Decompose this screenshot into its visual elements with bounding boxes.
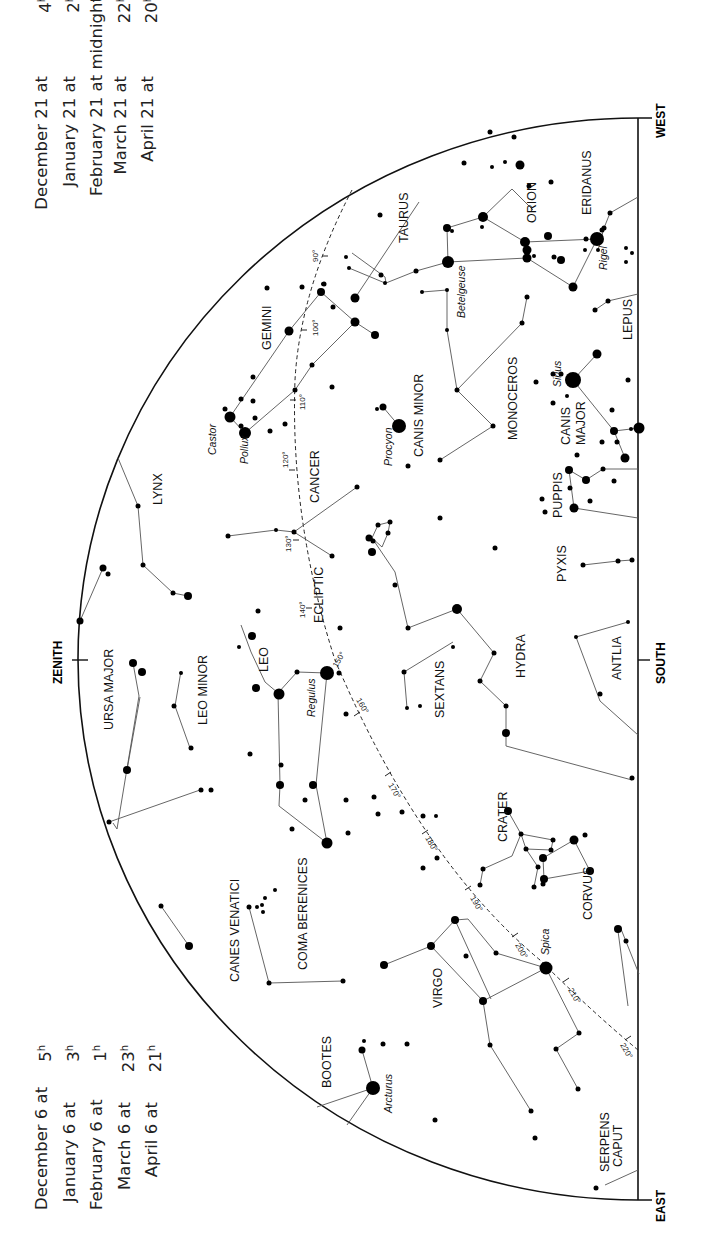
- constellation-lines: [80, 189, 639, 1185]
- label-leo: LEO: [257, 647, 271, 672]
- label-ursa-major: URSA MAJOR: [102, 649, 116, 730]
- label-sextans: SEXTANS: [433, 661, 447, 718]
- label-pyxis: PYXIS: [555, 545, 569, 582]
- constellation-labels: TAURUS ORION ERIDANUS GEMINI CANIS MINOR…: [102, 150, 635, 1172]
- zenith-label: ZENITH: [51, 641, 65, 684]
- label-crater: CRATER: [496, 792, 510, 842]
- label-virgo: VIRGO: [431, 967, 445, 1008]
- svg-text:150°: 150°: [331, 650, 347, 669]
- star-sirius: Sirius: [551, 360, 563, 387]
- svg-text:190°: 190°: [468, 895, 484, 914]
- star-regulus: Regulus: [305, 678, 317, 717]
- star-arcturus: Arcturus: [382, 1073, 394, 1114]
- star-betelgeuse: Betelgeuse: [455, 265, 467, 318]
- label-monoceros: MONOCEROS: [506, 357, 520, 440]
- svg-text:120°: 120°: [281, 451, 290, 468]
- label-caput: CAPUT: [611, 1124, 625, 1167]
- svg-text:200°: 200°: [513, 942, 529, 961]
- label-leo-minor: LEO MINOR: [196, 655, 210, 725]
- svg-text:130°: 130°: [284, 535, 293, 552]
- stars: [77, 130, 645, 1191]
- svg-text:210°: 210°: [566, 987, 582, 1006]
- label-cancer: CANCER: [308, 450, 322, 503]
- south-label: SOUTH: [654, 642, 668, 684]
- label-major: MAJOR: [574, 401, 588, 445]
- svg-text:160°: 160°: [354, 697, 370, 716]
- horizon-frame: [72, 118, 652, 1200]
- svg-text:140°: 140°: [298, 601, 307, 618]
- label-canis-minor: CANIS MINOR: [412, 374, 426, 457]
- label-canis: CANIS: [559, 407, 573, 445]
- label-ecliptic: ECLIPTIC: [312, 567, 326, 623]
- label-hydra: HYDRA: [514, 634, 528, 678]
- star-rigel: Rigel: [597, 245, 609, 270]
- label-lepus: LEPUS: [621, 299, 635, 340]
- star-chart: WEST SOUTH EAST ZENITH 90° 100° 110° 120…: [0, 0, 705, 1255]
- svg-text:170°: 170°: [386, 782, 402, 801]
- label-lynx: LYNX: [151, 473, 165, 505]
- label-puppis: PUPPIS: [551, 472, 565, 518]
- label-coma-berenices: COMA BERENICES: [296, 857, 310, 970]
- star-procyon: Procyon: [382, 427, 394, 466]
- label-serpens: SERPENS: [598, 1112, 612, 1172]
- star-castor: Castor: [206, 424, 218, 455]
- west-label: WEST: [654, 103, 668, 138]
- star-pollux: Pollux: [238, 435, 250, 464]
- svg-text:110°: 110°: [298, 394, 307, 410]
- label-canes-venatici: CANES VENATICI: [228, 879, 242, 982]
- label-orion: ORION: [525, 182, 539, 223]
- east-label: EAST: [654, 1189, 668, 1222]
- label-antlia: ANTLIA: [610, 636, 624, 680]
- label-gemini: GEMINI: [260, 306, 274, 350]
- label-bootes: BOOTES: [320, 1036, 334, 1088]
- svg-text:90°: 90°: [311, 250, 320, 262]
- label-taurus: TAURUS: [397, 193, 411, 243]
- svg-text:180°: 180°: [423, 835, 439, 854]
- svg-text:100°: 100°: [311, 319, 320, 336]
- star-spica: Spica: [539, 929, 551, 955]
- label-eridanus: ERIDANUS: [580, 150, 594, 215]
- star-names: Betelgeuse Rigel Castor Pollux Procyon S…: [206, 245, 609, 1114]
- label-corvus: CORVUS: [581, 867, 595, 920]
